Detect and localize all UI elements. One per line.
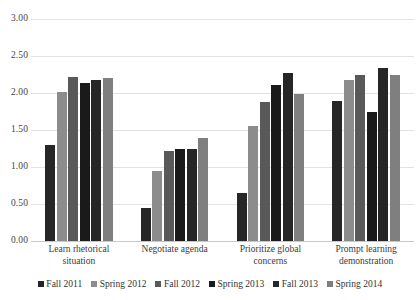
bar bbox=[344, 80, 354, 241]
bar bbox=[378, 68, 388, 241]
bar bbox=[355, 75, 365, 242]
legend-item[interactable]: Spring 2014 bbox=[327, 280, 382, 290]
y-axis-tick-label: 0.00 bbox=[11, 236, 28, 246]
gridline bbox=[31, 241, 414, 242]
bar-chart: 3.002.502.001.501.000.500.00 Learn rheto… bbox=[0, 0, 420, 300]
bar bbox=[175, 149, 185, 242]
bar-group bbox=[127, 19, 223, 241]
y-axis-tick-label: 0.50 bbox=[11, 199, 28, 209]
chart-legend: Fall 2011Spring 2012Fall 2012Spring 2013… bbox=[0, 280, 420, 290]
y-axis: 3.002.502.001.501.000.500.00 bbox=[0, 19, 28, 241]
y-axis-tick-label: 2.00 bbox=[11, 88, 28, 98]
bar bbox=[91, 80, 101, 241]
x-axis-label: Prioritize globalconcerns bbox=[223, 244, 319, 267]
legend-swatch-icon bbox=[38, 281, 44, 287]
bar bbox=[294, 94, 304, 241]
legend-label: Spring 2014 bbox=[335, 280, 382, 290]
x-axis-label: Negotiate agenda bbox=[127, 244, 223, 267]
legend-swatch-icon bbox=[209, 281, 215, 287]
x-axis-label-line: Learn rhetorical bbox=[33, 244, 125, 256]
bar bbox=[164, 151, 174, 241]
legend-swatch-icon bbox=[273, 281, 279, 287]
bar bbox=[367, 112, 377, 241]
bar-groups bbox=[31, 19, 414, 241]
legend-swatch-icon bbox=[155, 281, 161, 287]
bar bbox=[68, 77, 78, 241]
bar bbox=[152, 171, 162, 241]
x-axis-label-line: demonstration bbox=[320, 256, 412, 268]
x-axis-label-line: situation bbox=[33, 256, 125, 268]
bar bbox=[248, 126, 258, 241]
legend-item[interactable]: Spring 2013 bbox=[209, 280, 264, 290]
bar-group bbox=[31, 19, 127, 241]
bar bbox=[187, 149, 197, 241]
legend-item[interactable]: Fall 2012 bbox=[155, 280, 200, 290]
bar bbox=[237, 193, 247, 241]
bar bbox=[260, 102, 270, 241]
x-axis-label-line: concerns bbox=[225, 256, 317, 268]
legend-label: Spring 2012 bbox=[100, 280, 147, 290]
y-axis-tick-label: 1.50 bbox=[11, 125, 28, 135]
x-axis-label-line: Prompt learning bbox=[320, 244, 412, 256]
bar-group bbox=[318, 19, 414, 241]
bar-group bbox=[223, 19, 319, 241]
legend-swatch-icon bbox=[327, 281, 333, 287]
bar bbox=[141, 208, 151, 241]
y-axis-tick-label: 1.00 bbox=[11, 162, 28, 172]
legend-label: Spring 2013 bbox=[218, 280, 265, 290]
legend-item[interactable]: Spring 2012 bbox=[91, 280, 146, 290]
bar bbox=[198, 138, 208, 241]
bar bbox=[390, 75, 400, 241]
bar bbox=[332, 101, 342, 241]
x-axis-label-line: Prioritize global bbox=[225, 244, 317, 256]
x-axis-category-labels: Learn rhetoricalsituationNegotiate agend… bbox=[31, 244, 414, 267]
legend-label: Fall 2011 bbox=[46, 280, 82, 290]
legend-label: Fall 2012 bbox=[164, 280, 200, 290]
y-axis-tick-label: 2.50 bbox=[11, 51, 28, 61]
bar bbox=[283, 73, 293, 241]
bar bbox=[45, 145, 55, 241]
bar bbox=[57, 92, 67, 241]
bar bbox=[271, 85, 281, 241]
legend-item[interactable]: Fall 2013 bbox=[273, 280, 318, 290]
x-axis-label: Learn rhetoricalsituation bbox=[31, 244, 127, 267]
y-axis-tick-label: 3.00 bbox=[11, 14, 28, 24]
legend-swatch-icon bbox=[91, 281, 97, 287]
x-axis-label-line: Negotiate agenda bbox=[129, 244, 221, 256]
bar bbox=[103, 78, 113, 241]
legend-label: Fall 2013 bbox=[282, 280, 318, 290]
x-axis-label: Prompt learningdemonstration bbox=[318, 244, 414, 267]
legend-item[interactable]: Fall 2011 bbox=[38, 280, 82, 290]
bar bbox=[80, 83, 90, 241]
